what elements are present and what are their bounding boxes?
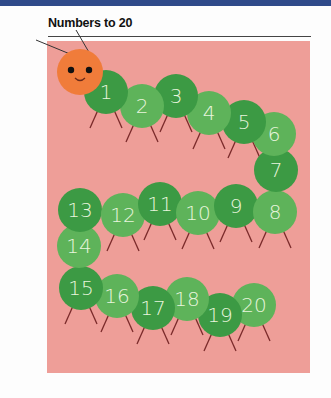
segment-number: 16	[104, 284, 129, 308]
caterpillar-illustration: 2019181716151413121110987654321	[0, 0, 331, 398]
segment-number: 9	[230, 194, 243, 218]
segment-number: 10	[185, 201, 210, 225]
leg-icon	[101, 314, 109, 332]
leg-icon	[90, 110, 98, 128]
segment-11: 11	[138, 182, 182, 226]
leg-icon	[168, 222, 176, 240]
segment-15: 15	[59, 266, 103, 310]
segment-number: 8	[269, 200, 282, 224]
leg-icon	[150, 124, 158, 142]
segment-number: 2	[136, 94, 149, 118]
leg-icon	[259, 230, 267, 248]
leg-icon	[262, 323, 270, 341]
leg-icon	[107, 233, 115, 251]
segment-number: 17	[140, 296, 165, 320]
segment-number: 11	[147, 192, 172, 216]
leg-icon	[283, 230, 291, 248]
segment-number: 4	[203, 101, 216, 125]
segment-number: 15	[68, 276, 93, 300]
leg-icon	[114, 110, 122, 128]
segment-number: 14	[66, 234, 91, 258]
segment-number: 18	[174, 287, 199, 311]
leg-icon	[131, 233, 139, 251]
leg-icon	[244, 224, 252, 242]
eye-icon	[68, 67, 74, 73]
leg-icon	[204, 333, 212, 351]
segment-13: 13	[58, 188, 102, 232]
segment-10: 10	[176, 191, 220, 235]
segment-number: 3	[170, 84, 183, 108]
leg-icon	[193, 131, 201, 149]
segment-number: 5	[238, 110, 251, 134]
leg-icon	[144, 222, 152, 240]
antenna-icon	[36, 40, 70, 54]
leg-icon	[137, 326, 145, 344]
eye-icon	[86, 67, 92, 73]
leg-icon	[182, 231, 190, 249]
leg-icon	[220, 224, 228, 242]
leg-icon	[228, 140, 236, 158]
segment-12: 12	[101, 193, 145, 237]
segment-number: 1	[100, 80, 113, 104]
caterpillar-body: 2019181716151413121110987654321	[57, 70, 298, 337]
leg-icon	[217, 131, 225, 149]
segment-8: 8	[253, 190, 297, 234]
leg-icon	[126, 124, 134, 142]
leg-icon	[125, 314, 133, 332]
segment-number: 19	[207, 303, 232, 327]
segment-number: 6	[268, 122, 281, 146]
segment-number: 13	[67, 198, 92, 222]
leg-icon	[89, 306, 97, 324]
leg-icon	[206, 231, 214, 249]
leg-icon	[161, 326, 169, 344]
caterpillar-head	[36, 30, 103, 95]
leg-icon	[171, 317, 179, 335]
segment-number: 7	[270, 158, 283, 182]
leg-icon	[228, 333, 236, 351]
segment-number: 20	[241, 293, 266, 317]
segment-number: 12	[110, 203, 135, 227]
segment-9: 9	[214, 184, 258, 228]
head-icon	[57, 49, 103, 95]
leg-icon	[65, 306, 73, 324]
